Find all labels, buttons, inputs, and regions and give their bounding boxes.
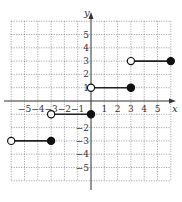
y-tick-label: −4 xyxy=(76,149,90,159)
y-tick-label: −2 xyxy=(76,123,89,133)
x-tick-label: −1 xyxy=(71,104,84,114)
y-axis-label: y xyxy=(83,7,90,18)
x-tick-label: 4 xyxy=(141,104,147,114)
step-function-graph: −5−4−3−2−112345−5−4−3−212345 x y xyxy=(0,0,182,202)
x-tick-label: 3 xyxy=(128,104,134,114)
y-tick-label: −3 xyxy=(76,136,90,146)
closed-endpoint-icon xyxy=(127,84,134,91)
closed-endpoint-icon xyxy=(87,111,94,118)
segment-3 xyxy=(87,84,134,91)
axes xyxy=(4,12,176,190)
open-endpoint-icon xyxy=(87,84,94,91)
x-tick-label: 2 xyxy=(115,104,121,114)
segment-4 xyxy=(127,58,174,65)
open-endpoint-icon xyxy=(48,111,55,118)
y-tick-label: 2 xyxy=(83,69,89,79)
x-tick-label: −2 xyxy=(58,104,71,114)
x-tick-label: 1 xyxy=(101,104,107,114)
closed-endpoint-icon xyxy=(167,58,174,65)
y-tick-label: 5 xyxy=(83,30,89,40)
closed-endpoint-icon xyxy=(48,137,55,144)
open-endpoint-icon xyxy=(8,137,15,144)
segment-1 xyxy=(8,137,55,144)
y-tick-label: 3 xyxy=(83,56,89,66)
open-endpoint-icon xyxy=(127,58,134,65)
y-tick-label: 4 xyxy=(83,43,89,53)
x-tick-label: −5 xyxy=(18,104,32,114)
x-axis-label: x xyxy=(172,103,178,114)
y-tick-label: −5 xyxy=(76,163,90,173)
x-tick-label: −4 xyxy=(31,104,45,114)
x-tick-label: 5 xyxy=(155,104,161,114)
